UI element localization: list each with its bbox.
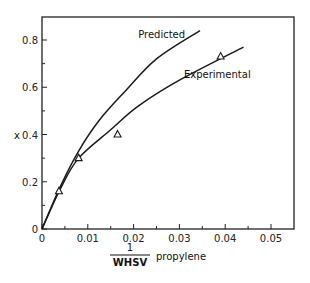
plot-border xyxy=(42,17,294,229)
chart: 00.010.020.030.040.05 00.20.40.60.8 Pred… xyxy=(0,0,310,283)
annotation-predicted: Predicted xyxy=(138,29,185,40)
x-tick-label: 0.02 xyxy=(122,233,144,244)
triangle-marker-icon xyxy=(217,53,224,60)
y-axis-ticks: 00.20.40.60.8 xyxy=(22,35,47,235)
x-tick-label: 0.04 xyxy=(214,233,236,244)
curves xyxy=(42,31,244,229)
x-tick-label: 0.01 xyxy=(77,233,99,244)
annotations: PredictedExperimental xyxy=(138,29,250,80)
y-tick-label: 0 xyxy=(32,224,38,235)
y-tick-label: 0.8 xyxy=(22,35,38,46)
y-tick-label: 0.6 xyxy=(22,82,38,93)
triangle-marker-icon xyxy=(114,131,121,138)
x-axis-label-numerator: 1 xyxy=(127,242,133,253)
annotation-experimental: Experimental xyxy=(184,69,251,80)
axis-labels: x 1 WHSV propylene xyxy=(14,130,206,268)
y-axis-label: x xyxy=(14,130,20,141)
x-axis-label-suffix: propylene xyxy=(156,251,206,262)
plot-frame xyxy=(42,17,294,229)
x-tick-label: 0.05 xyxy=(260,233,282,244)
x-tick-label: 0.03 xyxy=(168,233,190,244)
curve-predicted xyxy=(42,31,200,229)
x-axis-label-denominator: WHSV xyxy=(113,257,148,268)
y-tick-label: 0.2 xyxy=(22,177,38,188)
x-tick-label: 0 xyxy=(39,233,45,244)
x-axis-ticks: 00.010.020.030.040.05 xyxy=(39,224,282,244)
y-tick-label: 0.4 xyxy=(22,130,38,141)
